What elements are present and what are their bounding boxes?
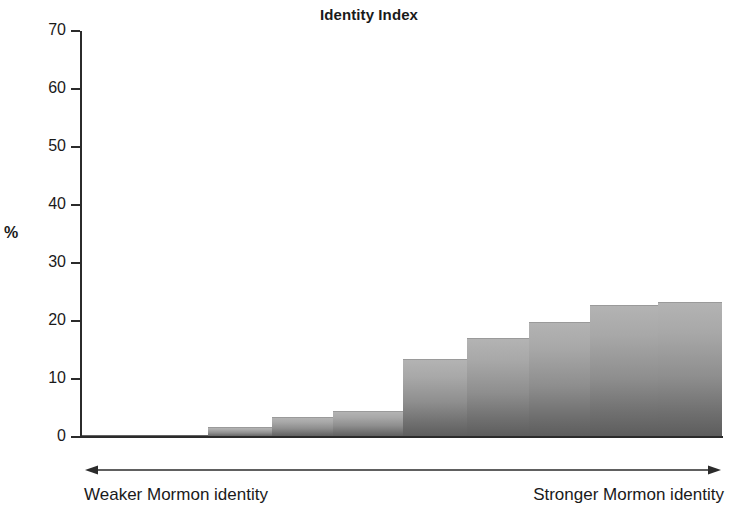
chart-title: Identity Index [0, 6, 738, 23]
y-axis-tick [71, 378, 80, 380]
weaker-identity-label: Weaker Mormon identity [84, 485, 268, 505]
y-axis-tick [71, 146, 80, 148]
y-axis-tick-label-text: 20 [24, 312, 66, 328]
stronger-identity-label: Stronger Mormon identity [533, 485, 724, 505]
y-axis-tick [71, 262, 80, 264]
y-axis-tick-label: 50 [22, 138, 66, 154]
bar [467, 338, 529, 437]
y-axis-tick-label: 40 [22, 196, 66, 212]
bar [658, 302, 722, 437]
y-axis-tick-label-text: 0 [24, 428, 66, 444]
identity-direction-arrow [85, 464, 721, 476]
y-axis-tick-label: 60 [22, 80, 66, 96]
y-axis-tick-label: 30 [22, 254, 66, 270]
y-axis-tick-label: 0 [22, 428, 66, 444]
bar [590, 305, 658, 437]
y-axis-tick-label: 10 [22, 370, 66, 386]
y-axis-title: % [4, 224, 18, 242]
identity-index-chart-figure: Identity Index % 706050403020100 Weaker … [0, 0, 738, 516]
x-axis-baseline [80, 436, 723, 438]
bar [333, 411, 403, 437]
y-axis-tick-label-text: 30 [24, 254, 66, 270]
y-axis-tick-label-text: 40 [24, 196, 66, 212]
y-axis-tick-label: 20 [22, 312, 66, 328]
y-axis-tick [71, 436, 80, 438]
bar [529, 322, 590, 437]
y-axis-tick-label-text: 50 [24, 138, 66, 154]
y-axis-tick-label-text: 70 [24, 22, 66, 38]
y-axis-tick-label-text: 60 [24, 80, 66, 96]
y-axis-tick [71, 204, 80, 206]
plot-area [82, 31, 722, 437]
y-axis-tick [71, 30, 80, 32]
bar [272, 417, 333, 437]
y-axis-tick [71, 88, 80, 90]
y-axis-tick-label-text: 10 [24, 370, 66, 386]
y-axis-tick-label: 70 [22, 22, 66, 38]
y-axis-tick [71, 320, 80, 322]
bar [403, 359, 467, 437]
